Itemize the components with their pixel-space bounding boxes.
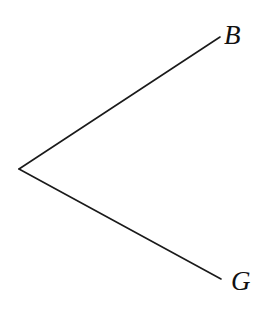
branch-line-g <box>19 169 221 279</box>
branch-line-b <box>19 37 220 169</box>
branch-label-g: G <box>231 268 251 295</box>
tree-diagram: B G <box>0 0 264 311</box>
branch-label-b: B <box>224 22 241 49</box>
